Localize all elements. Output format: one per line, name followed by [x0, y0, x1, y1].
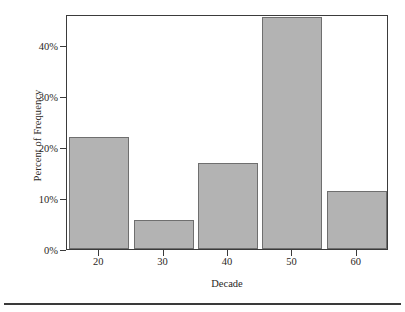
bar-chart-figure: Percent of Frequency 0%10%20%30%40% 2030… [0, 0, 405, 312]
y-tick-label-20%: 20% [0, 142, 58, 153]
y-axis-title: Percent of Frequency [32, 36, 43, 236]
x-tick-label-40: 40 [207, 256, 247, 267]
bar-50 [262, 17, 322, 249]
bar-60 [327, 191, 387, 249]
bar-40 [198, 163, 258, 249]
y-tick-label-40%: 40% [0, 40, 58, 51]
x-tick-label-20: 20 [78, 256, 118, 267]
bar-30 [134, 220, 194, 249]
x-tick-label-60: 60 [336, 256, 376, 267]
bar-20 [69, 137, 129, 249]
x-tick-label-30: 30 [143, 256, 183, 267]
bar-series [67, 16, 387, 249]
y-tick-label-30%: 30% [0, 91, 58, 102]
x-axis-title: Decade [66, 278, 388, 289]
y-tick-label-0%: 0% [0, 245, 58, 256]
plot-area [66, 15, 388, 250]
x-tick-label-50: 50 [271, 256, 311, 267]
y-tick-mark-0% [60, 250, 66, 251]
footer-divider [4, 303, 401, 305]
y-tick-label-10%: 10% [0, 193, 58, 204]
